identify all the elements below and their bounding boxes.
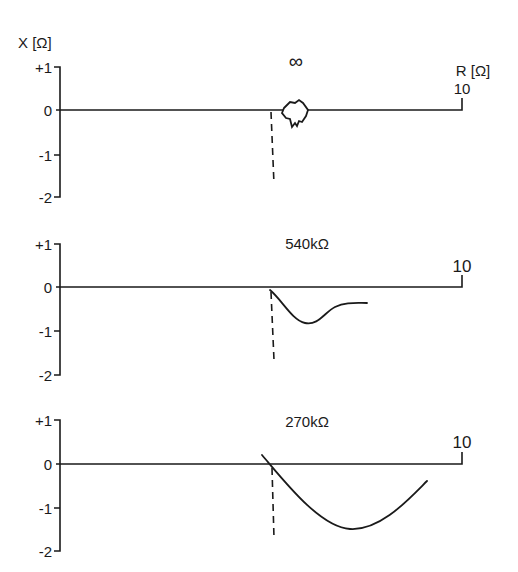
impedance-locus — [282, 100, 308, 127]
y-axis-label: X [Ω] — [18, 34, 52, 51]
x-tick-10: 10 — [453, 257, 472, 276]
y-tick-minus2: -2 — [39, 367, 52, 384]
panel-label: 270kΩ — [285, 413, 329, 430]
panel-label: 540kΩ — [285, 235, 329, 252]
x-axis — [56, 275, 462, 287]
impedance-locus — [262, 455, 427, 529]
x-axis-label: R [Ω] — [456, 62, 491, 79]
y-tick-minus1: -1 — [39, 500, 52, 517]
y-tick-minus2: -2 — [39, 543, 52, 560]
panel-270k: +1 0 -1 -2 10 270kΩ — [35, 412, 472, 560]
impedance-diagram: X [Ω] R [Ω] +1 0 -1 -2 10 ∞ +1 0 -1 -2 1… — [0, 0, 518, 572]
y-tick-0: 0 — [44, 102, 52, 119]
y-axis — [54, 244, 60, 375]
dashed-reference-line — [271, 292, 274, 360]
panel-infinity: +1 0 -1 -2 10 ∞ — [35, 50, 470, 206]
y-tick-minus1: -1 — [39, 323, 52, 340]
y-tick-0: 0 — [44, 456, 52, 473]
x-axis — [56, 452, 462, 464]
y-tick-minus1: -1 — [39, 147, 52, 164]
y-tick-plus1: +1 — [35, 59, 52, 76]
dashed-reference-line — [272, 468, 274, 538]
x-axis — [56, 98, 462, 110]
y-axis — [54, 67, 60, 197]
y-tick-0: 0 — [44, 279, 52, 296]
y-tick-minus2: -2 — [39, 189, 52, 206]
x-tick-10: 10 — [453, 433, 472, 452]
x-tick-10: 10 — [454, 80, 471, 97]
panel-label: ∞ — [289, 50, 303, 72]
dashed-reference-line — [271, 112, 274, 184]
y-tick-plus1: +1 — [35, 236, 52, 253]
impedance-locus — [270, 290, 367, 323]
panel-540k: +1 0 -1 -2 10 540kΩ — [35, 235, 472, 384]
y-tick-plus1: +1 — [35, 412, 52, 429]
y-axis — [54, 420, 60, 551]
